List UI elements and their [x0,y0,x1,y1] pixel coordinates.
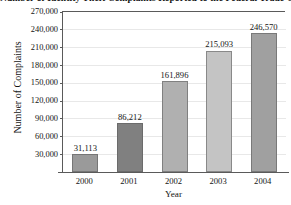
x-tick-label-2004: 2004 [233,176,291,186]
bar-2001[interactable] [117,123,143,172]
y-tick-label: 240,000 [14,26,58,34]
bar-2002[interactable] [162,81,188,172]
y-tick-mark [60,101,63,102]
y-tick-label: 210,000 [14,44,58,52]
y-tick-label: 120,000 [14,97,58,105]
y-tick-mark [60,154,63,155]
y-tick-mark [60,12,63,13]
bar-2003[interactable] [206,51,232,173]
y-tick-mark [60,65,63,66]
bar-2000[interactable] [72,154,98,172]
bar-value-label: 31,113 [55,144,115,153]
bar-value-label: 215,093 [189,40,249,49]
x-axis-line [58,172,289,173]
y-tick-mark [60,47,63,48]
y-tick-mark [60,136,63,137]
y-tick-mark [60,83,63,84]
plot-area: 31,113 86,212 161,896 215,093 246,570 [62,11,285,172]
x-axis-label: Year [62,189,285,199]
y-tick-label: 150,000 [14,79,58,87]
y-tick-label: 270,000 [14,8,58,16]
y-tick-label: 30,000 [14,151,58,159]
y-tick-label: 60,000 [14,133,58,141]
bar-chart-figure: Number of Identity Theft Complaints Repo… [0,0,291,205]
bar-value-label: 86,212 [100,113,160,122]
bar-value-label: 246,570 [234,23,291,32]
y-axis-tick-labels: 270,000 240,000 210,000 180,000 150,000 … [14,0,58,205]
y-tick-label: 90,000 [14,115,58,123]
bar-2004[interactable] [251,33,277,172]
y-tick-label: 180,000 [14,62,58,70]
bar-value-label: 161,896 [145,71,205,80]
y-tick-mark [60,118,63,119]
y-tick-mark [60,29,63,30]
